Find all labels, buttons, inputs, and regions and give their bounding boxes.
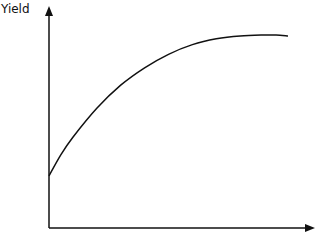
y-axis <box>45 6 53 228</box>
yield-curve <box>49 35 288 176</box>
x-axis-arrow-icon <box>305 224 315 232</box>
y-axis-arrow-icon <box>45 6 53 16</box>
chart <box>0 0 325 240</box>
x-axis <box>49 224 315 232</box>
